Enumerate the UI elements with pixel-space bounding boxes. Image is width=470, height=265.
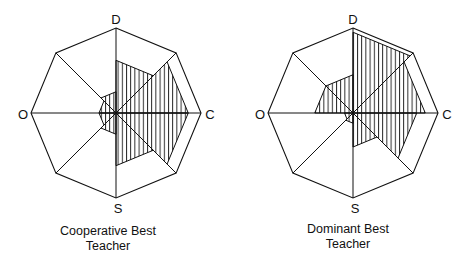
caption-cooperative-line1: Cooperative Best [60, 224, 156, 239]
spoke-line [293, 113, 353, 173]
right-label-s: S [351, 201, 360, 216]
left-label-c: C [205, 107, 214, 122]
left-label-o: O [18, 107, 28, 122]
right-label-d: D [348, 12, 357, 27]
caption-cooperative: Cooperative Best Teacher [60, 224, 156, 254]
caption-dominant-line2: Teacher [307, 237, 389, 252]
caption-dominant-line1: Dominant Best [307, 222, 389, 237]
left-label-d: D [111, 12, 120, 27]
caption-cooperative-line2: Teacher [60, 239, 156, 254]
right-label-c: C [442, 107, 451, 122]
caption-dominant: Dominant Best Teacher [307, 222, 389, 252]
octagon-diagram-cooperative [31, 28, 201, 198]
octagon-diagram-dominant [268, 28, 438, 198]
spoke-line [56, 53, 116, 113]
left-label-s: S [114, 201, 123, 216]
spoke-line [56, 113, 116, 173]
right-label-o: O [255, 107, 265, 122]
